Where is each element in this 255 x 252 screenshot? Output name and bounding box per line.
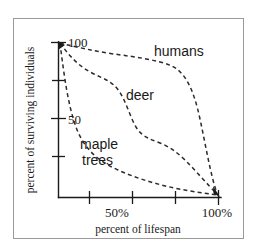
series-label-humans: humans [154, 43, 204, 59]
series-label-maple-line2: trees [82, 152, 113, 168]
curve-maple-trees [60, 43, 217, 195]
series-label-maple-line1: maple [80, 136, 118, 152]
y-tick-label-100: 100 [68, 35, 88, 50]
x-tick-label-50: 50% [105, 205, 129, 220]
series-label-deer: deer [126, 87, 154, 103]
curve-humans [60, 43, 217, 193]
x-tick-label-100: 100% [202, 205, 233, 220]
figure-frame: 100 50 50% 100% humans deer maple trees … [13, 18, 244, 239]
x-axis-title: percent of lifespan [95, 223, 181, 236]
y-axis-title: percent of surviving individuals [24, 46, 37, 193]
survivorship-curve-chart: 100 50 50% 100% humans deer maple trees … [14, 19, 243, 238]
curve-deer [60, 43, 216, 193]
y-tick-label-50: 50 [68, 112, 81, 127]
